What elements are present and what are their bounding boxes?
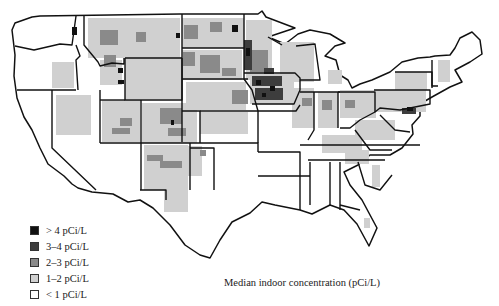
legend-swatch [30,242,39,251]
map-caption: Median indoor concentration (pCi/L) [224,277,380,288]
legend-item-2-3: 2–3 pCi/L [30,254,89,270]
legend-swatch [30,226,39,235]
legend-item-1-2: 1–2 pCi/L [30,271,89,287]
legend-label: < 1 pCi/L [46,289,87,300]
legend-item-gt4: > 4 pCi/L [30,222,89,238]
legend-label: > 4 pCi/L [46,225,87,236]
legend-label: 1–2 pCi/L [46,273,89,284]
legend-swatch [30,290,39,299]
legend-label: 3–4 pCi/L [46,241,89,252]
legend-item-lt1: < 1 pCi/L [30,287,89,303]
legend-item-3-4: 3–4 pCi/L [30,238,89,254]
legend-label: 2–3 pCi/L [46,257,89,268]
legend-swatch [30,258,39,267]
legend: > 4 pCi/L 3–4 pCi/L 2–3 pCi/L 1–2 pCi/L … [30,222,89,303]
legend-swatch [30,274,39,283]
